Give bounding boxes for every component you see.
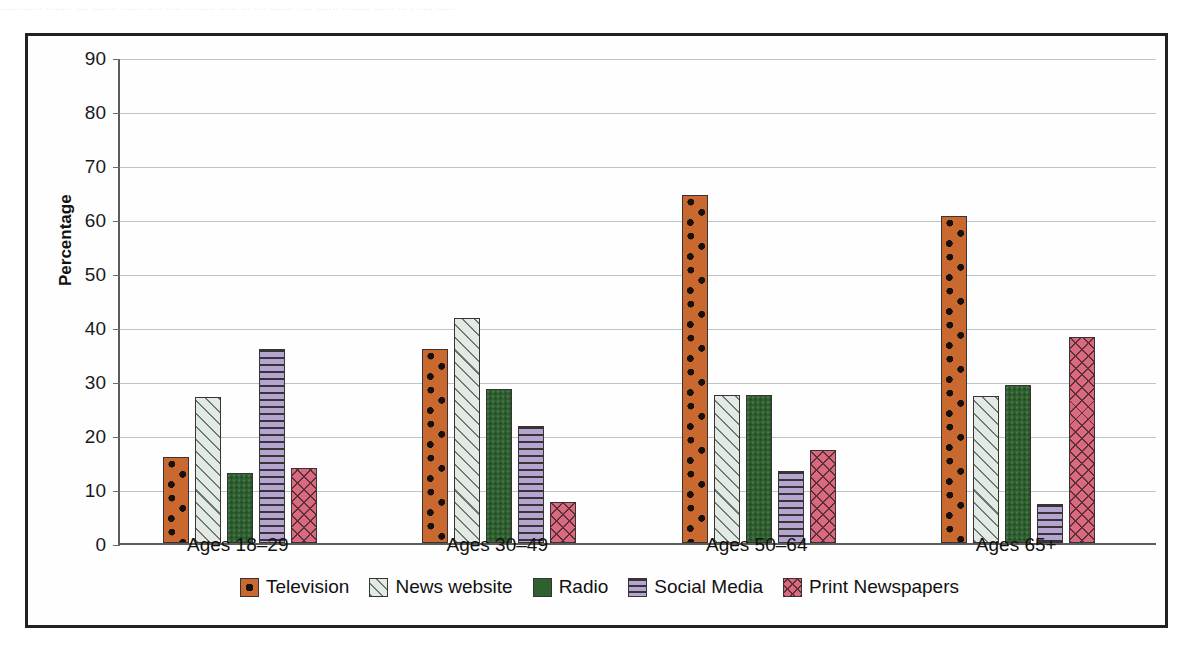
bar-social-media-group-1 [259,349,285,543]
bar-radio-group-1 [227,473,253,543]
gridline [120,329,1156,330]
legend-label: Print Newspapers [809,576,959,598]
legend-label: Television [266,576,349,598]
x-axis-group-label: Ages 65+ [976,534,1057,556]
gridline [120,167,1156,168]
bar-news-website-group-2 [454,318,480,543]
bar-television-group-3 [682,195,708,543]
x-axis-group-label: Ages 18–29 [187,534,288,556]
bar-television-group-1 [163,457,189,543]
gridline [120,113,1156,114]
y-axis-tick-label: 80 [66,102,106,124]
y-axis-tick-label: 40 [66,318,106,340]
gridline [120,221,1156,222]
legend-label: Radio [559,576,609,598]
bar-news-website-group-4 [973,396,999,543]
bar-print-newspapers-group-2 [550,502,576,543]
bar-print-newspapers-group-4 [1069,337,1095,543]
bar-social-media-group-3 [778,471,804,543]
y-axis-tick-label: 50 [66,264,106,286]
bar-print-newspapers-group-3 [810,450,836,543]
gridline [120,275,1156,276]
y-axis-tick [113,113,120,114]
legend-item-radio[interactable]: Radio [533,576,609,598]
y-axis-tick-label: 0 [66,534,106,556]
legend-swatch-print-newspapers-icon [783,578,802,597]
y-axis-tick [113,329,120,330]
y-axis-tick-label: 90 [66,48,106,70]
bar-radio-group-2 [486,389,512,543]
y-axis-tick [113,383,120,384]
y-axis-tick [113,59,120,60]
bar-radio-group-3 [746,395,772,544]
bar-radio-group-4 [1005,385,1031,543]
bar-news-website-group-1 [195,397,221,543]
x-axis-group-label: Ages 30–49 [447,534,548,556]
y-axis-tick [113,167,120,168]
y-axis-tick-label: 30 [66,372,106,394]
bar-television-group-2 [422,349,448,543]
legend-swatch-social-media-icon [628,578,647,597]
legend-label: Social Media [654,576,763,598]
y-axis-tick [113,545,120,546]
legend-item-television[interactable]: Television [240,576,349,598]
gridline [120,59,1156,60]
cropped-header-text: ............. ........ .... ........ ...… [0,0,1199,12]
legend-swatch-radio-icon [533,578,552,597]
plot-area: 0102030405060708090 [118,59,1156,545]
legend-item-social-media[interactable]: Social Media [628,576,763,598]
y-axis-tick [113,491,120,492]
bar-print-newspapers-group-1 [291,468,317,543]
y-axis-tick [113,275,120,276]
bar-news-website-group-3 [714,395,740,544]
figure-frame: Percentage 0102030405060708090 Televisio… [25,33,1168,628]
y-axis-tick-label: 60 [66,210,106,232]
legend-swatch-news-website-icon [369,578,388,597]
y-axis-tick [113,221,120,222]
y-axis-tick-label: 10 [66,480,106,502]
legend-item-print-newspapers[interactable]: Print Newspapers [783,576,959,598]
y-axis-tick [113,437,120,438]
y-axis-tick-label: 20 [66,426,106,448]
legend-label: News website [395,576,512,598]
legend-swatch-television-icon [240,578,259,597]
bar-television-group-4 [941,216,967,543]
bar-social-media-group-2 [518,426,544,543]
x-axis-group-label: Ages 50–64 [706,534,807,556]
legend-item-news-website[interactable]: News website [369,576,512,598]
y-axis-tick-label: 70 [66,156,106,178]
chart-legend: TelevisionNews websiteRadioSocial MediaP… [28,576,1171,598]
